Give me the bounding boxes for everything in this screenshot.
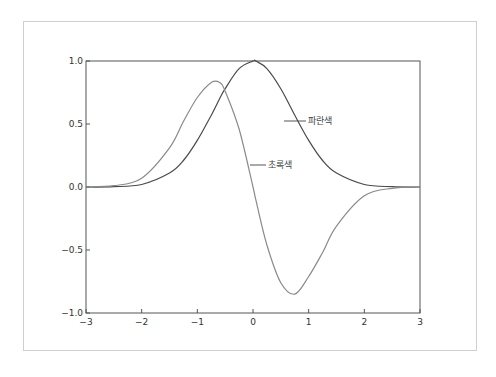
y-tick-label: −0.5 bbox=[61, 245, 83, 255]
green-series-label: 초록색 bbox=[268, 160, 292, 170]
x-tick-label: 2 bbox=[361, 317, 367, 327]
green-series-line bbox=[86, 81, 420, 294]
x-tick-label: 0 bbox=[250, 317, 256, 327]
series-lines bbox=[86, 60, 420, 294]
axis-ticks: −3−2−101231.00.50.0−0.5−1.0 bbox=[61, 56, 423, 327]
blue-series-label: 파란색 bbox=[308, 115, 332, 126]
y-tick-label: −1.0 bbox=[61, 308, 83, 318]
line-chart: −3−2−101231.00.50.0−0.5−1.0 파란색 초록색 bbox=[0, 0, 496, 377]
x-tick-label: −3 bbox=[79, 317, 92, 327]
y-tick-label: 0.5 bbox=[69, 119, 83, 129]
x-tick-label: −1 bbox=[191, 317, 204, 327]
blue-series-line bbox=[86, 60, 420, 187]
y-tick-label: 0.0 bbox=[69, 182, 84, 192]
x-tick-label: 1 bbox=[306, 317, 312, 327]
annotations: 파란색 초록색 bbox=[250, 115, 332, 170]
y-tick-label: 1.0 bbox=[69, 56, 84, 66]
x-tick-label: 3 bbox=[417, 317, 423, 327]
x-tick-label: −2 bbox=[135, 317, 148, 327]
